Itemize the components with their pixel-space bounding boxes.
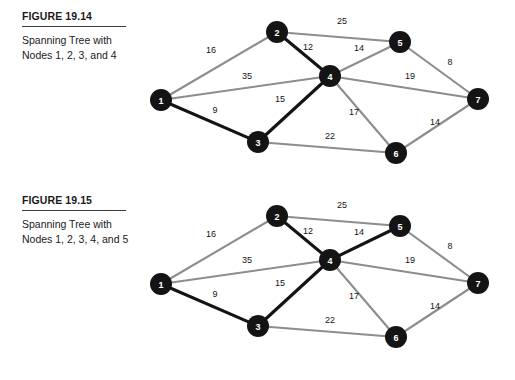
edge-weight-6-7: 14 [430, 117, 440, 127]
edge-3-4 [258, 76, 330, 142]
edge-weight-3-6: 22 [325, 315, 335, 325]
edge-weight-1-4: 35 [242, 255, 252, 265]
caption-divider [22, 26, 126, 27]
edge-weight-4-7: 19 [405, 71, 415, 81]
edge-weight-1-3: 9 [212, 289, 217, 299]
edge-weight-4-7: 19 [405, 255, 415, 265]
node-label-1: 1 [158, 280, 163, 290]
graph-svg-2: 1234567 1635925121522141917814 [130, 184, 515, 368]
node-3: 3 [247, 131, 269, 153]
node-6: 6 [385, 326, 407, 348]
edge-1-3 [161, 284, 258, 326]
edge-weight-3-4: 15 [275, 94, 285, 104]
node-label-6: 6 [393, 149, 398, 159]
node-label-7: 7 [475, 279, 480, 289]
edge-weight-2-5: 25 [337, 200, 347, 210]
figure-19-14-title: FIGURE 19.14 [22, 10, 142, 26]
node-1: 1 [150, 273, 172, 295]
edge-4-5 [330, 226, 400, 260]
node-label-3: 3 [255, 138, 260, 148]
edge-3-6 [258, 142, 396, 153]
node-label-5: 5 [397, 222, 402, 232]
edge-weight-4-5: 14 [354, 227, 364, 237]
edge-weight-4-6: 17 [349, 291, 359, 301]
edge-weight-5-7: 8 [447, 241, 452, 251]
node-7: 7 [467, 272, 489, 294]
figure-19-14-caption: FIGURE 19.14 Spanning Tree with Nodes 1,… [22, 10, 142, 62]
figure-19-15-description: Spanning Tree with Nodes 1, 2, 3, 4, and… [22, 217, 142, 246]
node-7: 7 [467, 88, 489, 110]
edge-3-4 [258, 260, 330, 326]
edge-4-5 [330, 42, 400, 76]
node-6: 6 [385, 142, 407, 164]
edge-1-2 [161, 216, 277, 284]
node-4: 4 [319, 65, 341, 87]
node-4: 4 [319, 249, 341, 271]
edge-weight-1-4: 35 [242, 71, 252, 81]
node-label-4: 4 [327, 72, 332, 82]
edge-2-5 [277, 216, 400, 226]
node-3: 3 [247, 315, 269, 337]
graph-svg-1: 1234567 1635925121522141917814 [130, 0, 515, 184]
edge-3-6 [258, 326, 396, 337]
edge-weight-2-4: 12 [303, 226, 313, 236]
edge-weight-3-6: 22 [325, 131, 335, 141]
edge-4-6 [330, 76, 396, 153]
edge-weight-1-2: 16 [206, 229, 216, 239]
edge-weight-4-6: 17 [349, 107, 359, 117]
figure-19-15-title: FIGURE 19.15 [22, 194, 142, 210]
edge-weight-2-5: 25 [337, 16, 347, 26]
edge-weight-1-3: 9 [212, 105, 217, 115]
node-label-5: 5 [397, 38, 402, 48]
node-1: 1 [150, 89, 172, 111]
edge-4-6 [330, 260, 396, 337]
edge-1-3 [161, 100, 258, 142]
figure-19-15-graph: 1234567 1635925121522141917814 [130, 184, 515, 368]
node-label-4: 4 [327, 256, 332, 266]
figure-19-14-description: Spanning Tree with Nodes 1, 2, 3, and 4 [22, 33, 142, 62]
figure-19-14-graph: 1234567 1635925121522141917814 [130, 0, 515, 184]
edge-weight-4-5: 14 [354, 43, 364, 53]
node-5: 5 [389, 215, 411, 237]
node-2: 2 [266, 205, 288, 227]
edge-weight-6-7: 14 [430, 301, 440, 311]
node-2: 2 [266, 21, 288, 43]
caption-divider [22, 210, 126, 211]
node-label-6: 6 [393, 333, 398, 343]
edge-weight-5-7: 8 [447, 57, 452, 67]
node-5: 5 [389, 31, 411, 53]
edge-weight-1-2: 16 [206, 45, 216, 55]
edge-1-2 [161, 32, 277, 100]
node-label-2: 2 [274, 28, 279, 38]
node-label-2: 2 [274, 212, 279, 222]
edge-weight-3-4: 15 [275, 278, 285, 288]
node-label-1: 1 [158, 96, 163, 106]
edge-weight-2-4: 12 [303, 42, 313, 52]
edge-2-5 [277, 32, 400, 42]
figure-19-15-caption: FIGURE 19.15 Spanning Tree with Nodes 1,… [22, 194, 142, 246]
node-label-7: 7 [475, 95, 480, 105]
node-label-3: 3 [255, 322, 260, 332]
